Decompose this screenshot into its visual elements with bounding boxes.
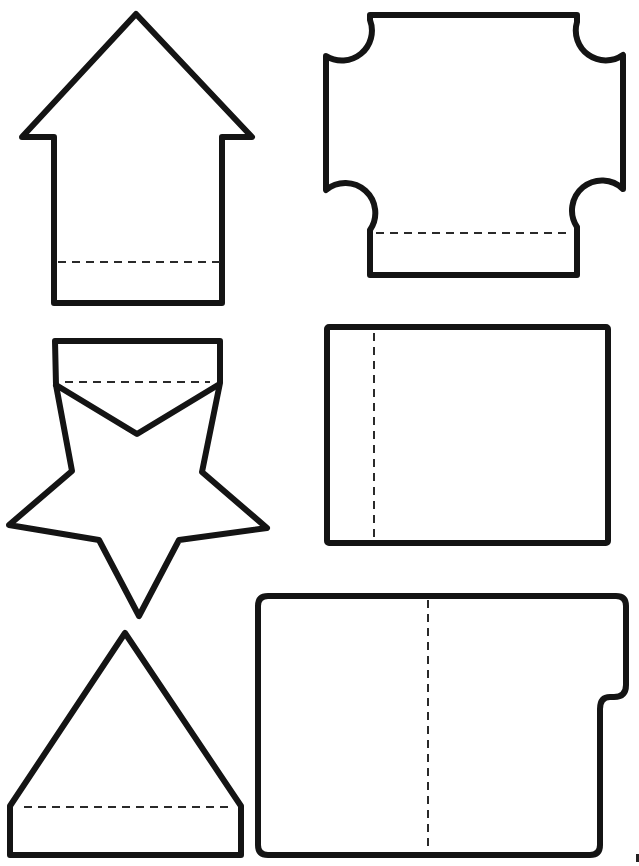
ticket-shape xyxy=(326,15,623,275)
star-shape xyxy=(9,341,267,616)
triangle-shape xyxy=(10,633,241,855)
folder-shape xyxy=(258,596,626,855)
house-shape xyxy=(22,14,252,303)
template-sheet xyxy=(0,0,639,866)
card-shape xyxy=(327,327,608,543)
